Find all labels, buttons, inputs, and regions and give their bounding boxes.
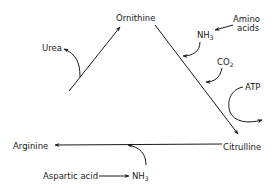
atp-label: ATP [245, 82, 260, 92]
citrulline-label: Citrulline [223, 142, 261, 152]
urea-release-arrow [64, 49, 80, 77]
aspartic-acid-label: Aspartic acid [43, 171, 98, 181]
arginine-label: Arginine [13, 141, 48, 151]
urea-cycle-diagram: Ornithine Citrulline Arginine Urea Amino… [0, 0, 279, 188]
co2-input-arrow [206, 68, 222, 82]
co2-label: CO2 [217, 57, 234, 68]
ornithine-label: Ornithine [116, 13, 155, 23]
citrulline-to-arginine-arrow [55, 144, 222, 145]
ornithine-to-citrulline-arrow [155, 25, 238, 134]
amino-acids-label-line2: acids [237, 23, 260, 33]
urea-label: Urea [42, 43, 62, 53]
nh3-top-label: NH3 [197, 30, 214, 41]
atp-cofactor-arrow [229, 87, 262, 122]
nh3-bottom-input-arrow [128, 145, 146, 165]
nh3-bottom-label: NH3 [132, 171, 149, 182]
amino-acids-to-nh3-arrow [215, 25, 233, 30]
nh3-input-arrow [183, 42, 200, 56]
